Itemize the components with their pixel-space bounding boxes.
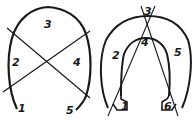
region-label-6: 6 [164, 100, 172, 113]
region-label-3: 3 [144, 5, 152, 18]
region-label-1: 1 [121, 100, 129, 113]
region-label-1: 1 [18, 102, 26, 115]
region-label-5: 5 [174, 46, 182, 59]
diagram-canvas: 3 2 4 1 5 3 4 2 5 1 6 [0, 0, 192, 120]
right-horseshoe-figure: 3 4 2 5 1 6 [101, 5, 191, 116]
region-label-5: 5 [66, 104, 74, 117]
region-label-4: 4 [140, 36, 149, 49]
region-label-2: 2 [112, 49, 120, 62]
left-horseshoe-figure: 3 2 4 1 5 [3, 7, 91, 117]
region-label-2: 2 [12, 56, 20, 69]
region-label-4: 4 [72, 56, 81, 69]
horseshoe-outer-arc [101, 16, 191, 108]
region-label-3: 3 [44, 18, 52, 31]
